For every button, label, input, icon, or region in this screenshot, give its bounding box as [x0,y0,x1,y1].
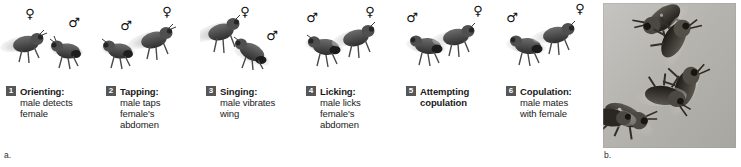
caption-head-6: 6 Copulation: [506,86,600,97]
stage-badge-6: 6 [506,86,516,96]
stage-art-6: ♂ ♀ [500,0,600,88]
stage-illustration-row: ♀ ♂ [0,0,600,88]
stage-title-5: Attempting [420,86,469,97]
stage-body-line: female [20,108,100,119]
stage-badge-4: 4 [306,86,316,96]
male-symbol-4: ♂ [306,10,318,25]
stage-body-line: with female [520,108,600,119]
stage-body-line: male mates [520,97,600,108]
caption-head-5: 5 Attempting [406,86,500,97]
panel-label-b: b. [604,150,611,160]
stage-art-2: ♂ ♀ [100,0,200,88]
stage-body-2: male taps female's abdomen [120,97,200,130]
caption-head-4: 4 Licking: [306,86,400,97]
stage-art-3: ♀ ♂ [200,0,300,88]
female-symbol-3: ♀ [240,4,250,19]
courtship-behavior-figure: ♀ ♂ [0,0,741,167]
stage-art-4: ♂ ♀ [300,0,400,88]
stage-body-line: male detects [20,97,100,108]
stage-title-2: Tapping: [120,86,159,97]
stage-caption-4: 4 Licking: male licks female's abdomen [300,86,400,152]
male-symbol-6: ♂ [506,10,518,25]
female-symbol-2: ♀ [162,4,172,19]
stage-caption-2: 2 Tapping: male taps female's abdomen [100,86,200,152]
stage-caption-row: 1 Orienting: male detects female 2 Tappi… [0,86,600,152]
stage-body-6: male mates with female [520,97,600,119]
stage-caption-3: 3 Singing: male vibrates wing [200,86,300,152]
male-symbol-1: ♂ [68,15,80,30]
female-symbol-5: ♀ [473,3,483,18]
stage-badge-1: 1 [6,86,16,96]
stage-caption-1: 1 Orienting: male detects female [0,86,100,152]
panel-a-illustrations: ♀ ♂ [0,0,600,167]
stage-art-1: ♀ ♂ [0,0,100,88]
stage-body-line: wing [220,108,300,119]
female-symbol-4: ♀ [365,4,375,19]
stage-body-1: male detects female [20,97,100,119]
stage-body-line: copulation [420,97,500,108]
stage-title-4: Licking: [320,86,356,97]
stage-body-line: male taps [120,97,200,108]
stage-body-line: female's [120,108,200,119]
stage-caption-6: 6 Copulation: male mates with female [500,86,600,152]
male-symbol-2: ♂ [120,18,132,33]
panel-label-a: a. [4,150,11,160]
caption-head-3: 3 Singing: [206,86,300,97]
stage-badge-5: 5 [406,86,416,96]
stage-badge-3: 3 [206,86,216,96]
stage-body-4: male licks female's abdomen [320,97,400,130]
stage-body-line: female's [320,108,400,119]
caption-head-2: 2 Tapping: [106,86,200,97]
stage-art-5: ♂ ♀ [400,0,500,88]
stage-body-5: copulation [420,97,500,108]
male-symbol-5: ♂ [406,10,418,25]
stage-badge-2: 2 [106,86,116,96]
stage-body-line: male vibrates [220,97,300,108]
panel-b-photograph [603,3,736,148]
stage-body-line: abdomen [320,119,400,130]
stage-title-1: Orienting: [20,86,64,97]
stage-title-3: Singing: [220,86,257,97]
caption-head-1: 1 Orienting: [6,86,100,97]
stage-caption-5: 5 Attempting copulation [400,86,500,152]
stage-body-line: abdomen [120,119,200,130]
stage-body-3: male vibrates wing [220,97,300,119]
female-symbol-6: ♀ [575,1,585,16]
stage-body-line: male licks [320,97,400,108]
female-symbol-1: ♀ [25,6,35,21]
stage-title-6: Copulation: [520,86,572,97]
male-symbol-3: ♂ [266,28,278,43]
